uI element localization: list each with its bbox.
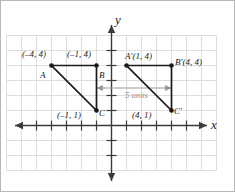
measure-arrow-left-head (97, 85, 104, 91)
label-c-prime-coordinates: (4, 1) (132, 111, 152, 120)
vertex-a-dot (49, 63, 54, 68)
x-axis-left-arrowhead (15, 122, 23, 129)
label-a-coordinates: (–4, 4) (22, 50, 46, 59)
y-axis-label: y (115, 13, 121, 26)
x-axis-right-arrowhead (199, 122, 207, 129)
coordinate-plane-figure: (–4, 4) A (–1, 4) B (–1, 1) C Aʹ(1, 4) B… (0, 0, 235, 192)
label-b-prime-name-coordinates: Bʹ(4, 4) (175, 58, 202, 67)
label-b-name: B (99, 71, 105, 80)
label-c-prime-name: Cʹ (174, 107, 182, 116)
coordinate-plane-svg (1, 1, 234, 191)
label-c-coordinates: (–1, 1) (57, 111, 81, 120)
label-c-name: C (99, 109, 105, 118)
y-axis-down-arrowhead (108, 173, 115, 181)
label-a-name: A (40, 71, 46, 80)
triangle-abc (49, 63, 99, 113)
vertex-b-dot (94, 63, 99, 68)
label-a-prime-name-coordinates: Aʹ(1, 4) (125, 52, 152, 61)
measure-arrow-right-head (165, 85, 172, 91)
measure-label: 5 units (125, 91, 148, 100)
y-axis (107, 25, 117, 181)
vertex-a-prime-dot (124, 63, 129, 68)
label-b-coordinates: (–1, 4) (67, 50, 91, 59)
vertex-b-prime-dot (169, 63, 174, 68)
x-axis-label: x (211, 118, 217, 131)
